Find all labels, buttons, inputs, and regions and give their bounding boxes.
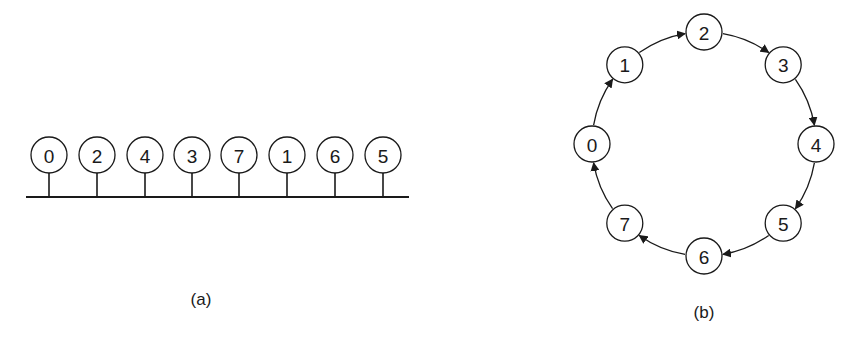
ring-edge: [639, 34, 685, 53]
caption-a: (a): [191, 290, 212, 309]
node-label: 0: [587, 135, 598, 156]
node-label: 6: [330, 146, 341, 167]
bus-node: 5: [365, 137, 401, 173]
ring-edge: [594, 79, 613, 125]
node-label: 5: [378, 146, 389, 167]
ring-edge: [723, 235, 769, 254]
figure: 02437165 (a) 23456701 (b): [0, 0, 856, 347]
ring-edge: [795, 163, 814, 209]
ring-edge: [723, 34, 769, 53]
ring-node: 6: [686, 238, 722, 274]
bus-diagram: 02437165 (a): [26, 137, 409, 309]
bus-node: 4: [127, 137, 163, 173]
node-label: 7: [620, 214, 631, 235]
ring-node: 3: [765, 47, 801, 83]
bus-node: 6: [317, 137, 353, 173]
bus-node: 2: [79, 137, 115, 173]
node-label: 0: [44, 146, 55, 167]
ring-diagram: 23456701 (b): [574, 14, 834, 322]
caption-b: (b): [694, 303, 715, 322]
node-label: 3: [778, 55, 789, 76]
ring-node: 5: [765, 205, 801, 241]
node-label: 2: [699, 23, 710, 44]
ring-edge: [594, 163, 613, 209]
ring-node: 1: [607, 47, 643, 83]
node-label: 5: [778, 214, 789, 235]
bus-node: 1: [269, 137, 305, 173]
node-label: 1: [620, 55, 631, 76]
node-label: 7: [234, 146, 245, 167]
ring-node: 2: [686, 14, 722, 50]
bus-node: 0: [31, 137, 67, 173]
node-label: 4: [811, 135, 822, 156]
bus-node: 3: [174, 137, 210, 173]
ring-node: 4: [798, 126, 834, 162]
node-label: 6: [699, 247, 710, 268]
node-label: 2: [92, 146, 103, 167]
bus-node: 7: [221, 137, 257, 173]
node-label: 1: [282, 146, 293, 167]
node-label: 4: [140, 146, 151, 167]
node-label: 3: [187, 146, 198, 167]
ring-edge: [795, 79, 814, 125]
ring-edge: [639, 235, 685, 254]
ring-node: 7: [607, 205, 643, 241]
ring-node: 0: [574, 126, 610, 162]
